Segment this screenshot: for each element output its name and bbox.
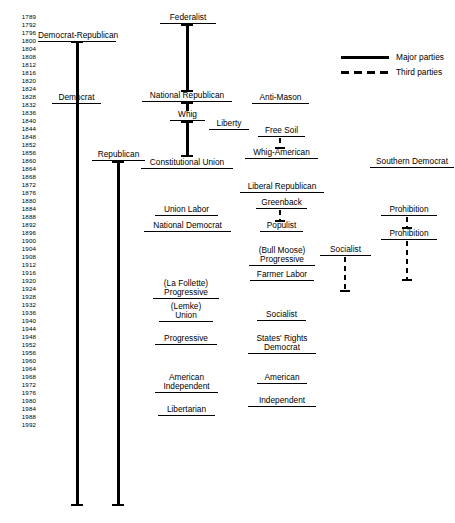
party-label-national-republican: National Republican — [142, 91, 232, 102]
party-label-federalist: Federalist — [160, 13, 216, 24]
year-label: 1872 — [6, 182, 36, 188]
year-label: 1880 — [6, 198, 36, 204]
party-label-socialist-right: Socialist — [320, 245, 371, 256]
party-label-democrat: Democrat — [52, 93, 101, 104]
party-label-la-follette-progressive: (La Follette) Progressive — [153, 279, 219, 299]
legend-label-third: Third parties — [396, 68, 442, 77]
year-label: 1860 — [6, 158, 36, 164]
line-cap-bottom-prohibition-second — [402, 279, 412, 281]
year-label: 1892 — [6, 222, 36, 228]
party-label-constitutional-union: Constitutional Union — [141, 158, 233, 169]
year-label: 1868 — [6, 174, 36, 180]
party-line-republican — [117, 162, 120, 504]
year-label: 1792 — [6, 22, 36, 28]
party-label-republican: Republican — [92, 150, 145, 161]
year-label: 1812 — [6, 62, 36, 68]
year-label: 1864 — [6, 166, 36, 172]
party-label-farmer-labor: Farmer Labor — [250, 270, 314, 281]
party-label-socialist-middle: Socialist — [257, 310, 306, 321]
year-label: 1896 — [6, 230, 36, 236]
legend: Major parties Third parties — [341, 50, 453, 86]
party-label-populist: Populist — [260, 221, 303, 232]
year-label: 1948 — [6, 334, 36, 340]
year-label: 1940 — [6, 318, 36, 324]
party-line-prohibition-second — [406, 241, 408, 279]
year-label: 1956 — [6, 350, 36, 356]
party-label-states-rights-democrat: States' Rights Democrat — [248, 334, 316, 354]
party-line-federalist — [186, 25, 189, 92]
year-label: 1844 — [6, 126, 36, 132]
year-label: 1916 — [6, 270, 36, 276]
party-label-independent-right: Independent — [248, 396, 316, 407]
year-label: 1808 — [6, 54, 36, 60]
year-label: 1924 — [6, 286, 36, 292]
year-label: 1888 — [6, 214, 36, 220]
states-rights-line2: Democrat — [264, 342, 300, 352]
line-cap-bottom-republican — [112, 504, 124, 506]
la-follette-line2: Progressive — [164, 287, 208, 297]
year-label: 1789 — [6, 14, 36, 20]
year-label: 1828 — [6, 94, 36, 100]
bull-moose-line2: Progressive — [260, 254, 304, 264]
legend-item-major: Major parties — [341, 50, 453, 65]
line-cap-top-republican — [112, 161, 124, 163]
year-label: 1932 — [6, 302, 36, 308]
party-label-greenback: Greenback — [256, 198, 307, 209]
year-label: 1912 — [6, 262, 36, 268]
year-label: 1832 — [6, 102, 36, 108]
party-label-bull-moose-progressive: (Bull Moose) Progressive — [249, 246, 315, 266]
year-label: 1936 — [6, 310, 36, 316]
year-label: 1852 — [6, 142, 36, 148]
year-label: 1964 — [6, 366, 36, 372]
year-label: 1836 — [6, 110, 36, 116]
line-cap-top-whig — [181, 121, 193, 123]
party-label-liberty: Liberty — [209, 119, 249, 130]
year-label: 1972 — [6, 382, 36, 388]
year-label: 1900 — [6, 238, 36, 244]
party-label-anti-mason: Anti-Mason — [252, 93, 309, 104]
year-label: 1796 — [6, 30, 36, 36]
year-label: 1984 — [6, 406, 36, 412]
dashed-line-swatch-icon — [341, 71, 389, 74]
party-line-democrat-lineage — [76, 42, 79, 504]
party-label-prohibition-second: Prohibition — [381, 229, 437, 240]
line-cap-bottom-democrat — [71, 504, 83, 506]
party-line-socialist-right — [344, 257, 346, 290]
line-cap-top-democrat-republican — [71, 41, 83, 43]
year-label: 1980 — [6, 398, 36, 404]
line-cap-bottom-socialist-right — [340, 290, 350, 292]
year-label: 1848 — [6, 134, 36, 140]
party-label-liberal-republican: Liberal Republican — [240, 182, 324, 193]
legend-label-major: Major parties — [396, 53, 444, 62]
party-label-free-soil: Free Soil — [258, 126, 305, 137]
year-label: 1800 — [6, 38, 36, 44]
year-label: 1952 — [6, 342, 36, 348]
year-label: 1876 — [6, 190, 36, 196]
year-label: 1976 — [6, 390, 36, 396]
party-label-progressive: Progressive — [155, 334, 217, 345]
year-label: 1904 — [6, 246, 36, 252]
party-label-lemke-union: (Lemke) Union — [159, 302, 213, 322]
american-independent-left-line2: Independent — [163, 381, 209, 391]
party-label-whig-american: Whig-American — [245, 148, 318, 159]
party-label-american-right: American — [257, 373, 307, 384]
year-label: 1804 — [6, 46, 36, 52]
year-label: 1988 — [6, 414, 36, 420]
year-label: 1816 — [6, 70, 36, 76]
party-label-whig: Whig — [170, 110, 205, 121]
party-label-national-democrat: National Democrat — [144, 221, 231, 232]
lemke-line2: Union — [175, 310, 197, 320]
year-label: 1928 — [6, 294, 36, 300]
party-label-southern-democrat: Southern Democrat — [370, 157, 454, 168]
year-label: 1820 — [6, 78, 36, 84]
legend-item-third: Third parties — [341, 65, 453, 80]
year-label: 1960 — [6, 358, 36, 364]
party-label-union-labor: Union Labor — [155, 205, 218, 216]
year-label: 1968 — [6, 374, 36, 380]
year-label: 1884 — [6, 206, 36, 212]
year-label: 1992 — [6, 422, 36, 428]
party-label-libertarian: Libertarian — [158, 405, 215, 416]
year-label: 1944 — [6, 326, 36, 332]
year-label: 1824 — [6, 86, 36, 92]
year-label: 1908 — [6, 254, 36, 260]
